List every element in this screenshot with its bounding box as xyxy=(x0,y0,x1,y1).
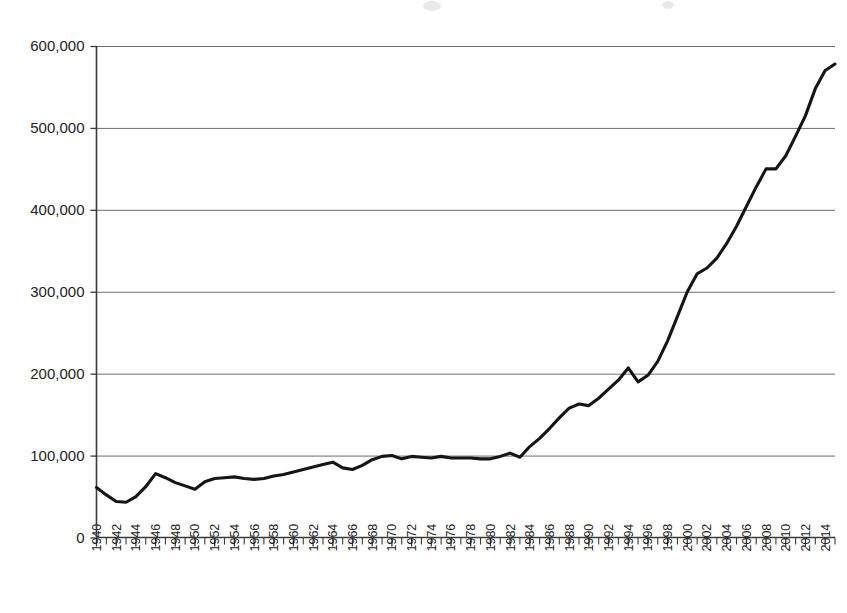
y-axis-tick-label: 300,000 xyxy=(30,283,84,300)
line-chart: 0100,000200,000300,000400,000500,000600,… xyxy=(0,0,847,613)
y-axis-tick-label: 0 xyxy=(76,529,84,546)
gridlines xyxy=(91,47,836,539)
chart-container: 0100,000200,000300,000400,000500,000600,… xyxy=(0,0,847,613)
scan-artifacts xyxy=(423,1,674,11)
y-axis-tick-labels: 0100,000200,000300,000400,000500,000600,… xyxy=(30,37,84,546)
y-axis-tick-label: 400,000 xyxy=(30,201,84,218)
data-series-line xyxy=(97,64,836,502)
y-axis-tick-label: 200,000 xyxy=(30,365,84,382)
y-axis-tick-label: 600,000 xyxy=(30,37,84,54)
y-axis-tick-label: 500,000 xyxy=(30,119,84,136)
y-axis-tick-label: 100,000 xyxy=(30,447,84,464)
